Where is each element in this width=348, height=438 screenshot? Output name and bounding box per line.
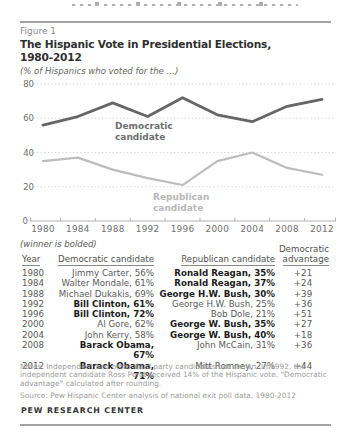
x-axis-label: 2008: [275, 224, 299, 234]
figure-label: Figure 1: [20, 26, 56, 36]
table-cell-democratic-advantage: +27: [275, 319, 331, 329]
table-header-republican-candidate: Republican candidate: [154, 254, 275, 266]
table-cell-democratic-advantage: +36: [275, 340, 331, 361]
y-axis-label: 60: [23, 113, 34, 123]
table-row: 2004 John Kerry, 58% George W. Bush, 40%…: [20, 330, 331, 340]
table-cell-democratic-candidate: Bill Clinton, 72%: [56, 309, 154, 319]
table-cell-democratic-candidate: Walter Mondale, 61%: [56, 278, 154, 288]
table-cell-republican-candidate: George H.W. Bush, 25%: [154, 299, 275, 309]
x-axis-label: 1980: [31, 224, 55, 234]
table-cell-republican-candidate: George H.W. Bush, 30%: [154, 289, 275, 299]
table-cell-democratic-candidate: Jimmy Carter, 56%: [56, 268, 154, 278]
table-cell-democratic-advantage: +51: [275, 309, 331, 319]
table-cell-year: 1984: [20, 278, 56, 288]
table-cell-democratic-advantage: +18: [275, 330, 331, 340]
table-header-row: Year Democratic candidate Republican can…: [20, 245, 331, 268]
table-cell-year: 1992: [20, 299, 56, 309]
y-axis-label: 80: [23, 79, 34, 89]
table-cell-democratic-advantage: +21: [275, 268, 331, 278]
table-row: 2000 Al Gore, 62% George W. Bush, 35% +2…: [20, 319, 331, 329]
figure-subtitle: (% of Hispanics who voted for the …): [20, 66, 178, 76]
figure-title: The Hispanic Vote in Presidential Electi…: [20, 38, 271, 64]
table-cell-year: 1980: [20, 268, 56, 278]
table-cell-democratic-candidate: John Kerry, 58%: [56, 330, 154, 340]
table-row: 1984 Walter Mondale, 61% Ronald Reagan, …: [20, 278, 331, 288]
table-header-democratic-advantage: Democraticadvantage: [275, 245, 331, 266]
figure-card: Figure 1 The Hispanic Vote in Presidenti…: [0, 0, 348, 438]
table-row: 1980 Jimmy Carter, 56% Ronald Reagan, 35…: [20, 268, 331, 278]
table-cell-democratic-candidate: Al Gore, 62%: [56, 319, 154, 329]
table-cell-year: 1988: [20, 289, 56, 299]
y-axis-label: 40: [23, 148, 34, 158]
table-header-democratic-candidate: Democratic candidate: [56, 254, 154, 266]
table-cell-democratic-candidate: Barack Obama, 67%: [56, 340, 154, 361]
table-cell-year: 1996: [20, 309, 56, 319]
table-cell-republican-candidate: Bob Dole, 21%: [154, 309, 275, 319]
table-row: 2008 Barack Obama, 67% John McCain, 31% …: [20, 340, 331, 361]
x-axis-label: 1992: [136, 224, 160, 234]
results-table: Year Democratic candidate Republican can…: [20, 245, 331, 381]
democratic-line: [43, 98, 322, 125]
x-axis-label: 2004: [240, 224, 264, 234]
x-axis-label: 1996: [171, 224, 195, 234]
cropped-text-fragment: [72, 2, 298, 6]
table-cell-democratic-advantage: +24: [275, 278, 331, 288]
table-cell-republican-candidate: Ronald Reagan, 37%: [154, 278, 275, 288]
table-cell-democratic-candidate: Bill Clinton, 61%: [56, 299, 154, 309]
table-cell-republican-candidate: Ronald Reagan, 35%: [154, 268, 275, 278]
table-cell-year: 2000: [20, 319, 56, 329]
x-axis-label: 2000: [206, 224, 230, 234]
table-cell-republican-candidate: John McCain, 31%: [154, 340, 275, 361]
source-text: Source: Pew Hispanic Center analysis of …: [20, 391, 333, 400]
table-cell-year: 2004: [20, 330, 56, 340]
table-cell-year: 2008: [20, 340, 56, 361]
table-cell-democratic-advantage: +36: [275, 299, 331, 309]
y-axis-label: 20: [23, 182, 34, 192]
table-cell-democratic-candidate: Michael Dukakis, 69%: [56, 289, 154, 299]
democratic-series-label: Democraticcandidate: [115, 121, 173, 142]
table-row: 1988 Michael Dukakis, 69% George H.W. Bu…: [20, 289, 331, 299]
x-axis-label: 2012: [310, 224, 334, 234]
republican-series-label: Republicancandidate: [153, 192, 209, 213]
y-axis-label: 0: [23, 216, 28, 226]
figure-title-line2: 1980-2012: [20, 51, 82, 63]
table-cell-republican-candidate: George W. Bush, 40%: [154, 330, 275, 340]
table-header-year: Year: [20, 254, 56, 266]
notes-text: Notes: Independent and other third party…: [20, 363, 333, 388]
bottom-divider: [20, 424, 331, 426]
table-row: 1996 Bill Clinton, 72% Bob Dole, 21% +51: [20, 309, 331, 319]
top-divider: [20, 21, 331, 23]
x-axis-label: 1984: [66, 224, 90, 234]
republican-line: [43, 153, 322, 186]
table-row: 1992 Bill Clinton, 61% George H.W. Bush,…: [20, 299, 331, 309]
table-cell-republican-candidate: George W. Bush, 35%: [154, 319, 275, 329]
figure-title-line1: The Hispanic Vote in Presidential Electi…: [20, 38, 271, 50]
table-cell-democratic-advantage: +39: [275, 289, 331, 299]
pew-research-center-wordmark: PEW RESEARCH CENTER: [21, 406, 144, 415]
line-chart: 0204060801980198419881992199620002004200…: [0, 76, 348, 240]
x-axis-label: 1988: [101, 224, 125, 234]
